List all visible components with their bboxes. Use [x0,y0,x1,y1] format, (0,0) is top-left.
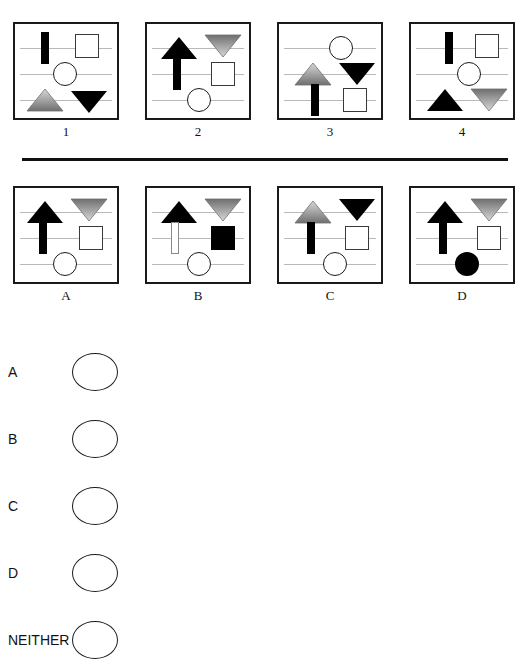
triangle-down-black-glyph [70,90,108,114]
choice-panel-label: D [457,288,466,304]
answer-option-bubble[interactable] [72,420,118,458]
choice-cell-a[interactable]: A [0,186,132,304]
answer-option-bubble[interactable] [72,353,118,391]
choice-panel-label: C [326,288,335,304]
square-hollow [345,226,369,250]
choice-cell-c[interactable]: C [264,186,396,304]
triangle-down-black [338,62,376,86]
square-hollow [75,34,99,58]
circle-hollow [457,62,481,86]
triangle-down-gray-glyph [470,88,508,112]
triangle-down-black-glyph [338,198,376,222]
triangle-down-gray-glyph [70,198,108,222]
triangle-down-black-glyph [338,62,376,86]
square-hollow [343,88,367,112]
stimulus-panel-label: 1 [63,124,70,140]
circle-hollow [187,88,211,112]
answer-option-label: B [0,430,72,448]
stimulus-cell-3: 3 [264,22,396,140]
choice-cell-b[interactable]: B [132,186,264,304]
circle-hollow [187,252,211,276]
stimulus-panel-3 [277,22,383,120]
stimulus-panel-2 [145,22,251,120]
choice-panel-b[interactable] [145,186,251,284]
answer-option-bubble[interactable] [72,487,118,525]
choice-panel-a[interactable] [13,186,119,284]
circle-hollow [53,252,77,276]
answer-option-bubble[interactable] [72,621,118,659]
circle-hollow [53,62,77,86]
triangle-down-black [338,198,376,222]
circle-hollow [323,252,347,276]
square-hollow [475,34,499,58]
answer-option-label: A [0,363,72,381]
triangle-down-gray [204,198,242,222]
answer-option-neither[interactable]: NEITHER [0,620,200,660]
choice-cell-d[interactable]: D [396,186,528,304]
triangle-down-gray-glyph [204,198,242,222]
triangle-up-black-glyph [160,200,198,224]
square-hollow [477,226,501,250]
triangle-up-black [426,88,464,112]
triangle-up-black-glyph [426,200,464,224]
answer-option-label: D [0,564,72,582]
circle-hollow [329,36,353,60]
answer-option-d[interactable]: D [0,553,200,593]
choice-panel-label: B [194,288,203,304]
square-black [211,226,235,250]
triangle-up-black [160,36,198,60]
stimulus-panel-label: 2 [195,124,202,140]
bar-black [39,222,47,254]
triangle-up-gray [26,88,64,112]
bar-black [41,32,49,64]
answer-option-c[interactable]: C [0,486,200,526]
stimulus-panel-row: 1234 [0,22,528,140]
stimulus-panel-label: 4 [459,124,466,140]
triangle-down-gray [204,34,242,58]
triangle-up-black-glyph [426,88,464,112]
triangle-up-black [160,200,198,224]
stimulus-panel-1 [13,22,119,120]
bar-hollow [171,222,179,254]
triangle-down-gray [470,198,508,222]
choice-panel-label: A [61,288,70,304]
choice-panel-row: ABCD [0,186,528,304]
answer-option-label: NEITHER [0,631,72,649]
triangle-down-gray-glyph [204,34,242,58]
bar-black [173,58,181,90]
triangle-down-gray-glyph [470,198,508,222]
bar-black [307,222,315,254]
triangle-up-gray [294,62,332,86]
answer-option-a[interactable]: A [0,352,200,392]
bar-black [439,222,447,254]
stimulus-cell-4: 4 [396,22,528,140]
choice-panel-c[interactable] [277,186,383,284]
triangle-up-gray [294,200,332,224]
square-hollow [211,62,235,86]
triangle-down-gray [470,88,508,112]
circle-black [455,252,479,276]
triangle-up-black [26,200,64,224]
stimulus-panel-4 [409,22,515,120]
triangle-up-gray-glyph [294,200,332,224]
stimulus-cell-2: 2 [132,22,264,140]
triangle-down-gray [70,198,108,222]
stimulus-panel-label: 3 [327,124,334,140]
answer-option-label: C [0,497,72,515]
answer-option-b[interactable]: B [0,419,200,459]
triangle-down-black [70,90,108,114]
triangle-up-black-glyph [26,200,64,224]
stimulus-cell-1: 1 [0,22,132,140]
bar-black [445,32,453,64]
square-hollow [79,226,103,250]
triangle-up-black-glyph [160,36,198,60]
bar-black [311,84,319,116]
triangle-up-black [426,200,464,224]
answer-option-bubble[interactable] [72,554,118,592]
triangle-up-gray-glyph [294,62,332,86]
section-divider [22,158,508,161]
choice-panel-d[interactable] [409,186,515,284]
triangle-up-gray-glyph [26,88,64,112]
